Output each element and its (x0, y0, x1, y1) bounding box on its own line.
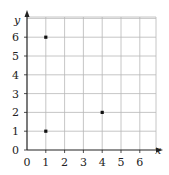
data-point (44, 130, 47, 133)
x-tick-label: 6 (136, 156, 143, 169)
x-tick-label: 1 (42, 156, 49, 169)
y-axis-arrow-icon (25, 10, 30, 17)
y-axis-label: y (13, 14, 21, 27)
x-axis-label: x (155, 144, 162, 157)
x-tick-label: 5 (118, 156, 125, 169)
y-tick-label: 6 (12, 31, 19, 44)
x-tick-label: 0 (24, 156, 31, 169)
y-tick-label: 2 (12, 106, 19, 119)
y-tick-label: 0 (12, 144, 19, 157)
y-tick-label: 4 (12, 69, 19, 82)
data-point (44, 36, 47, 39)
x-tick-label: 4 (99, 156, 106, 169)
scatter-chart: 01234560123456 x y (0, 0, 169, 175)
x-tick-label: 2 (61, 156, 68, 169)
data-points (44, 36, 104, 133)
data-point (101, 111, 104, 114)
tick-labels: 01234560123456 (12, 31, 143, 169)
y-tick-label: 1 (12, 125, 19, 138)
x-tick-label: 3 (80, 156, 87, 169)
y-tick-label: 3 (12, 88, 19, 101)
y-tick-label: 5 (12, 50, 19, 63)
